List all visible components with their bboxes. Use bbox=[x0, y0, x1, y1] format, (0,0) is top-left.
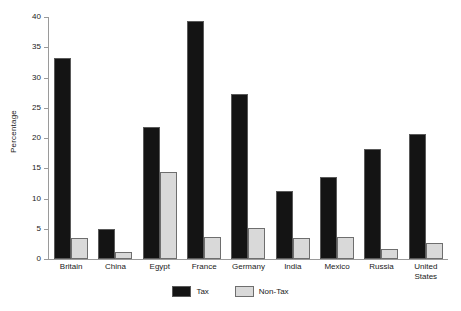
legend-swatch-nontax bbox=[235, 286, 254, 297]
bar-tax bbox=[231, 94, 248, 259]
y-axis-tick-label: 40 bbox=[32, 12, 41, 21]
bar-non-tax bbox=[426, 243, 443, 259]
legend-label: Tax bbox=[196, 287, 208, 296]
y-axis-tick-mark bbox=[44, 199, 48, 200]
bar-tax bbox=[276, 191, 293, 259]
legend-item: Tax bbox=[172, 286, 208, 297]
y-axis-tick-label: 20 bbox=[32, 133, 41, 142]
bar-non-tax bbox=[381, 249, 398, 259]
y-axis-tick-mark bbox=[44, 168, 48, 169]
bar-non-tax bbox=[293, 238, 310, 259]
bar-tax bbox=[320, 177, 337, 259]
y-axis-tick-label: 25 bbox=[32, 103, 41, 112]
y-axis-tick-mark bbox=[44, 78, 48, 79]
bar-tax bbox=[409, 134, 426, 259]
bar-non-tax bbox=[71, 238, 88, 259]
legend-item: Non-Tax bbox=[235, 286, 289, 297]
bar-tax bbox=[143, 127, 160, 259]
bar-group bbox=[226, 17, 270, 259]
bar-tax bbox=[98, 229, 115, 259]
bar-group bbox=[404, 17, 448, 259]
y-axis-tick-mark bbox=[44, 229, 48, 230]
bar-group bbox=[359, 17, 403, 259]
y-axis-title: Percentage bbox=[0, 0, 26, 262]
bar-non-tax bbox=[337, 237, 354, 259]
bar-non-tax bbox=[160, 172, 177, 259]
y-axis-tick-mark bbox=[44, 108, 48, 109]
legend-label: Non-Tax bbox=[259, 287, 289, 296]
bar-tax bbox=[54, 58, 71, 259]
y-axis-tick-label: 15 bbox=[32, 163, 41, 172]
y-axis-tick-mark bbox=[44, 17, 48, 18]
bar-group bbox=[271, 17, 315, 259]
bar-tax bbox=[187, 21, 204, 259]
y-axis-tick-label: 5 bbox=[37, 224, 41, 233]
bar-group bbox=[182, 17, 226, 259]
bar-group bbox=[93, 17, 137, 259]
bar-non-tax bbox=[248, 228, 265, 259]
y-axis-title-text: Percentage bbox=[9, 110, 18, 153]
y-axis-tick-mark bbox=[44, 259, 48, 260]
y-axis-tick-label: 30 bbox=[32, 73, 41, 82]
legend-swatch-tax bbox=[172, 286, 191, 297]
bar-chart: Percentage 0510152025303540 BritainChina… bbox=[0, 0, 461, 311]
bar-tax bbox=[364, 149, 381, 259]
y-axis-tick-label: 0 bbox=[37, 254, 41, 263]
bar-group bbox=[138, 17, 182, 259]
chart-legend: TaxNon-Tax bbox=[0, 286, 461, 297]
y-axis-tick-mark bbox=[44, 138, 48, 139]
x-axis-line bbox=[48, 259, 448, 260]
y-axis-tick-label: 35 bbox=[32, 42, 41, 51]
plot-area: 0510152025303540 bbox=[48, 17, 448, 259]
y-axis-tick-label: 10 bbox=[32, 194, 41, 203]
bar-groups bbox=[49, 17, 448, 259]
bar-non-tax bbox=[204, 237, 221, 259]
y-axis-tick-mark bbox=[44, 47, 48, 48]
bar-group bbox=[315, 17, 359, 259]
bar-non-tax bbox=[115, 252, 132, 259]
bar-group bbox=[49, 17, 93, 259]
